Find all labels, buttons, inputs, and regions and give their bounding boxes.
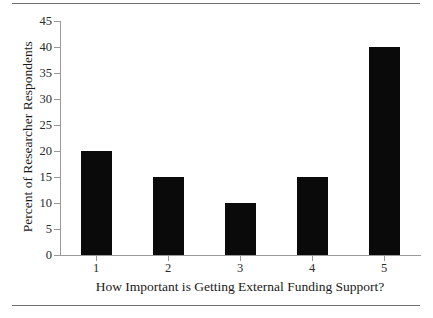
x-axis-title: How Important is Getting External Fundin… [60,280,420,295]
bar [81,151,112,255]
y-axis-tick [54,151,60,152]
x-axis-tick-label: 4 [292,262,332,275]
y-axis-tick [54,177,60,178]
bar [153,177,184,255]
bar [369,47,400,255]
bar-chart-figure: 051015202530354045 12345 Percent of Rese… [0,0,433,318]
bottom-divider-rule [12,305,420,306]
y-axis-title: Percent of Researcher Respondents [21,12,35,262]
x-axis-tick-label: 5 [364,262,404,275]
y-axis-tick [54,229,60,230]
x-axis-tick-label: 1 [76,262,116,275]
y-axis-tick [54,255,60,256]
bar [225,203,256,255]
y-axis-tick [54,47,60,48]
y-axis-tick [54,73,60,74]
x-axis-tick-label: 2 [148,262,188,275]
bar [297,177,328,255]
y-axis-tick [54,203,60,204]
y-axis-tick [54,125,60,126]
y-axis-tick [54,21,60,22]
top-divider-rule [12,3,420,4]
y-axis-tick [54,99,60,100]
y-axis-line [60,21,61,256]
x-axis-tick-label: 3 [220,262,260,275]
